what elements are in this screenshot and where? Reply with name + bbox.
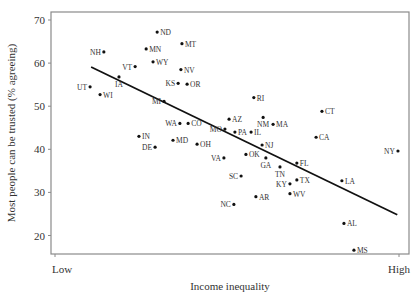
point-label: NH [90, 48, 101, 57]
point-label: CA [319, 133, 330, 142]
point-label: IN [142, 132, 150, 141]
point-marker [145, 47, 148, 50]
data-point-mt: MT [180, 40, 196, 49]
point-marker [396, 149, 399, 152]
point-label: TX [300, 176, 311, 185]
point-label: RI [257, 94, 265, 103]
data-point-ar: AR [254, 193, 269, 202]
data-point-mn: MN [145, 45, 162, 54]
point-marker [288, 182, 291, 185]
point-marker [180, 42, 183, 45]
data-point-nc: NC [220, 200, 235, 209]
point-label: PA [238, 128, 247, 137]
point-label: KS [166, 79, 176, 88]
data-point-al: AL [342, 219, 357, 228]
data-point-md: MD [171, 136, 188, 145]
y-tick-label: 30 [34, 186, 46, 198]
data-point-il: IL [249, 128, 261, 137]
y-tick-label: 40 [34, 143, 46, 155]
point-label: UT [77, 83, 87, 92]
data-point-or: OR [185, 80, 200, 89]
scatter-chart: 203040506070 Low High Income inequality … [0, 0, 420, 299]
data-point-ut: UT [77, 83, 92, 92]
point-marker [232, 203, 235, 206]
point-label: AL [347, 219, 357, 228]
point-marker [288, 192, 291, 195]
data-point-wi: WI [98, 91, 113, 100]
data-point-tn: TN [275, 165, 286, 179]
point-marker [156, 30, 159, 33]
data-point-ga: GA [260, 156, 271, 170]
point-marker [171, 139, 174, 142]
data-point-wa: WA [165, 119, 181, 128]
point-marker [195, 143, 198, 146]
point-marker [154, 146, 157, 149]
point-label: NC [220, 200, 230, 209]
y-tick-label: 20 [34, 230, 46, 242]
point-marker [177, 82, 180, 85]
point-marker [320, 110, 323, 113]
data-point-nv: NV [179, 66, 195, 75]
data-point-ct: CT [320, 107, 335, 116]
point-marker [178, 122, 181, 125]
point-marker [240, 174, 243, 177]
data-point-az: AZ [227, 115, 242, 124]
point-label: ND [160, 28, 171, 37]
point-label: MS [357, 246, 368, 255]
point-marker [151, 60, 154, 63]
point-label: CO [191, 119, 202, 128]
point-marker [137, 135, 140, 138]
point-label: VT [122, 63, 132, 72]
point-marker [295, 161, 298, 164]
data-point-mi: MI [152, 97, 166, 106]
data-point-wy: WY [151, 58, 169, 67]
point-label: DE [142, 143, 152, 152]
point-marker [227, 118, 230, 121]
point-label: NJ [265, 141, 273, 150]
data-point-va: VA [211, 154, 225, 163]
point-label: OH [200, 140, 211, 149]
point-label: AZ [232, 115, 242, 124]
point-label: WY [156, 58, 169, 67]
data-point-in: IN [137, 132, 150, 141]
point-label: MD [176, 136, 189, 145]
data-point-ia: IA [115, 75, 123, 89]
y-tick-label: 60 [34, 57, 46, 69]
point-marker [342, 222, 345, 225]
point-label: WI [103, 91, 113, 100]
point-label: LA [345, 177, 356, 186]
point-label: MN [149, 45, 162, 54]
point-marker [98, 93, 101, 96]
point-marker [162, 100, 165, 103]
data-point-ok: OK [244, 150, 260, 159]
point-marker [340, 179, 343, 182]
data-point-ky: KY [276, 180, 291, 189]
x-axis-low-label: Low [52, 263, 72, 275]
point-marker [260, 143, 263, 146]
point-marker [187, 122, 190, 125]
plot-frame [51, 12, 409, 254]
point-label: KY [276, 180, 287, 189]
point-marker [222, 156, 225, 159]
data-point-nh: NH [90, 48, 105, 57]
data-point-ny: NY [384, 147, 399, 156]
point-label: IA [115, 80, 123, 89]
point-marker [102, 50, 105, 53]
point-label: IL [254, 128, 261, 137]
data-point-la: LA [340, 177, 355, 186]
point-marker [88, 85, 91, 88]
point-label: TN [275, 170, 286, 179]
data-point-sc: SC [229, 172, 243, 181]
point-marker [314, 136, 317, 139]
x-axis-title: Income inequality [190, 280, 270, 292]
data-point-ma: MA [271, 120, 288, 129]
point-marker [295, 178, 298, 181]
point-label: AR [259, 193, 269, 202]
point-marker [185, 83, 188, 86]
data-point-ca: CA [314, 133, 330, 142]
point-label: VA [211, 154, 221, 163]
point-marker [271, 123, 274, 126]
point-marker [179, 68, 182, 71]
y-axis: 203040506070 [34, 14, 51, 242]
data-point-vt: VT [122, 63, 137, 72]
